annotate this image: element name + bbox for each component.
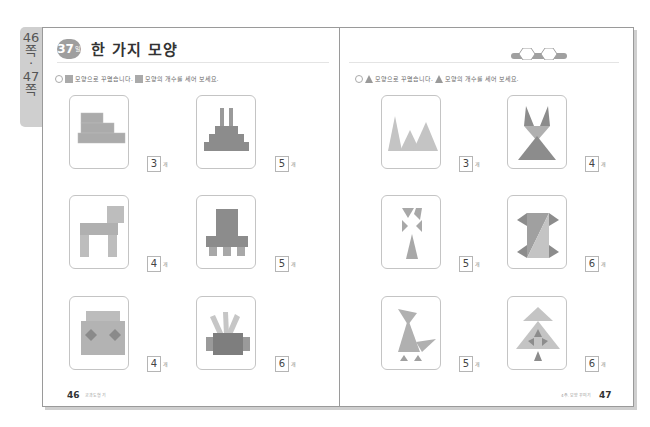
answer-box[interactable]: 5 <box>275 256 289 272</box>
answer-box[interactable]: 5 <box>275 156 289 172</box>
workbook-spread: 37일 한 가지 모양 모양으로 꾸몄습니다. 모양의 개수를 세어 보세요. … <box>42 27 634 407</box>
figure-card-tree <box>507 296 567 370</box>
answer-box[interactable]: 4 <box>585 156 599 172</box>
answer-box[interactable]: 4 <box>147 356 161 372</box>
right-footer-label: 4주. 모양 꾸미기 <box>561 392 591 398</box>
answer-box[interactable]: 5 <box>459 356 473 372</box>
triangle-icon <box>435 75 443 83</box>
unit-label: 개 <box>475 260 480 267</box>
figure-card-dog <box>69 195 129 269</box>
tower-figure-icon <box>197 96 255 168</box>
answer-box[interactable]: 4 <box>147 256 161 272</box>
right-instruction: 모양으로 꾸몄습니다. 모양의 개수를 세어 보세요. <box>355 74 518 83</box>
fox-figure-icon <box>508 96 566 168</box>
flower-figure-icon <box>382 196 440 268</box>
circle-number-icon <box>55 75 63 83</box>
unit-label: 개 <box>475 360 480 367</box>
figure-card-tower <box>196 95 256 169</box>
hexagon-decoration-icon <box>511 48 571 60</box>
triangle-icon <box>365 75 373 83</box>
unit-label: 개 <box>475 160 480 167</box>
left-instruction: 모양으로 꾸몄습니다. 모양의 개수를 세어 보세요. <box>55 74 218 83</box>
stairs-figure-icon <box>70 96 128 168</box>
unit-label: 개 <box>601 360 606 367</box>
page-title: 한 가지 모양 <box>91 38 178 59</box>
spool-figure-icon <box>508 196 566 268</box>
left-footer-label: 교과도형 기 <box>85 392 106 398</box>
crown-box-figure-icon <box>197 297 255 369</box>
title-divider-right <box>349 62 619 63</box>
figure-card-bird <box>381 296 441 370</box>
instruction-text: 모양의 개수를 세어 보세요. <box>445 74 519 83</box>
unit-label: 개 <box>291 160 296 167</box>
unit-label: 개 <box>163 260 168 267</box>
robot-base-figure-icon <box>197 196 255 268</box>
lesson-number: 37 <box>57 42 74 56</box>
unit-label: 개 <box>163 160 168 167</box>
figure-card-crown-box <box>196 296 256 370</box>
unit-label: 개 <box>601 160 606 167</box>
figure-card-spool <box>507 195 567 269</box>
figure-card-robot-base <box>196 195 256 269</box>
figure-card-stairs <box>69 95 129 169</box>
answer-box[interactable]: 6 <box>585 356 599 372</box>
figure-card-flower <box>381 195 441 269</box>
instruction-text: 모양의 개수를 세어 보세요. <box>145 74 219 83</box>
answer-box[interactable]: 3 <box>459 156 473 172</box>
square-icon <box>65 75 73 83</box>
book-spine <box>339 28 340 406</box>
square-icon <box>135 75 143 83</box>
lesson-header: 37일 한 가지 모양 <box>57 38 178 59</box>
unit-label: 개 <box>291 360 296 367</box>
bird-figure-icon <box>382 297 440 369</box>
lesson-badge: 37일 <box>57 39 81 59</box>
answer-box[interactable]: 3 <box>147 156 161 172</box>
figure-card-face <box>69 296 129 370</box>
tree-figure-icon <box>508 297 566 369</box>
instruction-text: 모양으로 꾸몄습니다. <box>375 74 433 83</box>
instruction-text: 모양으로 꾸몄습니다. <box>75 74 133 83</box>
unit-label: 개 <box>291 260 296 267</box>
lesson-suffix: 일 <box>75 44 81 53</box>
answer-box[interactable]: 5 <box>459 256 473 272</box>
face-figure-icon <box>70 297 128 369</box>
title-divider <box>57 62 329 63</box>
page-unit-label: 쪽 <box>20 83 42 96</box>
left-page-number: 46 <box>67 390 80 400</box>
mountains-figure-icon <box>382 96 440 168</box>
answer-box[interactable]: 6 <box>585 256 599 272</box>
unit-label: 개 <box>163 360 168 367</box>
figure-card-fox <box>507 95 567 169</box>
figure-card-mountains <box>381 95 441 169</box>
answer-box[interactable]: 6 <box>275 356 289 372</box>
right-page-number: 47 <box>599 390 612 400</box>
page-range-tab: 46 쪽 · 47 쪽 <box>20 27 42 127</box>
dog-figure-icon <box>70 196 128 268</box>
circle-number-icon <box>355 75 363 83</box>
unit-label: 개 <box>601 260 606 267</box>
